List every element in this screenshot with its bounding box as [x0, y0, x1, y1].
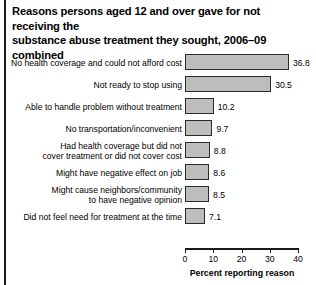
x-axis-tick — [213, 248, 214, 253]
chart-figure: Reasons persons aged 12 and over gave fo… — [0, 0, 316, 285]
chart-row: Not ready to stop using30.5 — [0, 74, 316, 96]
chart-row: No transportation/inconvenient9.7 — [0, 118, 316, 140]
bar-value-label: 8.6 — [213, 162, 225, 184]
category-label-line: Did not feel need for treatment at the t… — [23, 212, 182, 222]
category-label-line: Had health coverage but did not — [60, 141, 182, 151]
category-label: Might cause neighbors/communityto have n… — [6, 184, 182, 206]
bar-value-label: 8.8 — [214, 140, 226, 162]
chart-row: Might cause neighbors/communityto have n… — [0, 184, 316, 206]
bar-value-label: 7.1 — [209, 206, 221, 228]
category-label-line: cover treatment or did not cover cost — [43, 151, 182, 161]
bar-slot: 8.5 — [185, 184, 316, 206]
bar-value-label: 30.5 — [275, 74, 292, 96]
category-label: Not ready to stop using — [6, 74, 182, 96]
category-label: Did not feel need for treatment at the t… — [6, 206, 182, 228]
bar-value-label: 36.8 — [293, 52, 310, 74]
bar-slot: 9.7 — [185, 118, 316, 140]
chart-row: No health coverage and could not afford … — [0, 52, 316, 74]
category-label-line: to have negative opinion — [89, 195, 182, 205]
bar-slot: 7.1 — [185, 206, 316, 228]
bar-slot: 30.5 — [185, 74, 316, 96]
bar-slot: 8.6 — [185, 162, 316, 184]
bar[interactable] — [185, 98, 214, 114]
x-axis-tick — [242, 248, 243, 253]
bar-slot: 36.8 — [185, 52, 316, 74]
chart-row: Able to handle problem without treatment… — [0, 96, 316, 118]
category-label: Had health coverage but did notcover tre… — [6, 140, 182, 162]
bar-value-label: 10.2 — [218, 96, 235, 118]
chart-row: Might have negative effect on job8.6 — [0, 162, 316, 184]
x-axis-tick-label: 30 — [265, 254, 275, 264]
x-axis-tick — [185, 248, 186, 253]
chart-row: Did not feel need for treatment at the t… — [0, 206, 316, 228]
category-label-line: Might cause neighbors/community — [52, 185, 182, 195]
category-label: No health coverage and could not afford … — [6, 52, 182, 74]
category-label-line: Might have negative effect on job — [56, 168, 182, 178]
bar[interactable] — [185, 208, 205, 224]
plot-area: No health coverage and could not afford … — [0, 52, 316, 248]
category-label: Able to handle problem without treatment — [6, 96, 182, 118]
x-axis-tick-label: 40 — [293, 254, 303, 264]
category-label: Might have negative effect on job — [6, 162, 182, 184]
bar-slot: 8.8 — [185, 140, 316, 162]
x-axis-tick-label: 0 — [183, 254, 188, 264]
bar[interactable] — [185, 120, 212, 136]
bar[interactable] — [185, 186, 209, 202]
bar-value-label: 8.5 — [213, 184, 225, 206]
category-label-line: Able to handle problem without treatment — [25, 102, 182, 112]
x-axis-tick-label: 10 — [208, 254, 218, 264]
category-label-line: Not ready to stop using — [94, 80, 182, 90]
chart-title-line: Reasons persons aged 12 and over gave fo… — [12, 4, 308, 33]
bar[interactable] — [185, 76, 271, 92]
bar-slot: 10.2 — [185, 96, 316, 118]
x-axis-tick — [298, 248, 299, 253]
category-label-line: No health coverage and could not afford … — [11, 58, 182, 68]
category-label: No transportation/inconvenient — [6, 118, 182, 140]
bar[interactable] — [185, 164, 209, 180]
x-axis-tick — [270, 248, 271, 253]
chart-row: Had health coverage but did notcover tre… — [0, 140, 316, 162]
x-axis-title: Percent reporting reason — [185, 268, 299, 278]
bar[interactable] — [185, 142, 210, 158]
bar[interactable] — [185, 54, 289, 70]
bar-value-label: 9.7 — [216, 118, 228, 140]
x-axis-tick-label: 20 — [237, 254, 247, 264]
category-label-line: No transportation/inconvenient — [65, 124, 182, 134]
